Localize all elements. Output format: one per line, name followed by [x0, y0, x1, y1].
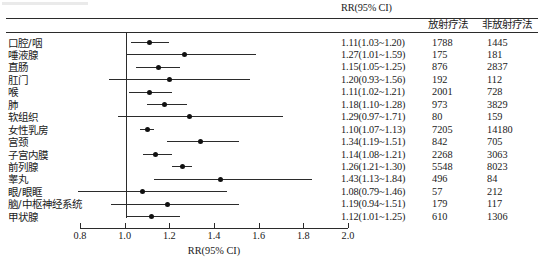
axis-tick [125, 223, 126, 228]
axis-tick-label: 1.6 [252, 230, 265, 242]
axis-tick [348, 223, 349, 228]
axis-tick [259, 223, 260, 228]
axis-tick-label: 2.0 [342, 230, 355, 242]
axis-tick-label: 1.2 [163, 230, 176, 242]
axis-tick [80, 223, 81, 228]
x-axis: 0.81.01.21.41.61.82.0 RR(95% CI) [0, 0, 544, 264]
axis-tick [169, 223, 170, 228]
axis-tick-label: 1.0 [118, 230, 131, 242]
axis-tick-label: 0.8 [74, 230, 87, 242]
forest-plot-figure: RR(95% CI) 放射疗法 非放射疗法 口腔/咽1.11(1.03~1.20… [0, 0, 544, 264]
axis-title: RR(95% CI) [188, 245, 240, 257]
axis-tick-label: 1.4 [208, 230, 221, 242]
axis-tick [303, 223, 304, 228]
axis-tick [214, 223, 215, 228]
axis-tick-label: 1.8 [297, 230, 310, 242]
axis-line [80, 228, 348, 229]
